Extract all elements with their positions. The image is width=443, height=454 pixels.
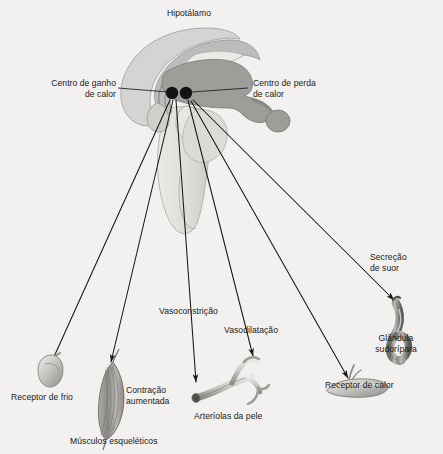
heat-loss-center-label-line2: de calor bbox=[253, 89, 284, 100]
contraction-label-line2: aumentada bbox=[126, 396, 169, 407]
cold-receptor-label: Receptor de frio bbox=[11, 392, 73, 403]
heat-receptor-label: Receptor de calor bbox=[325, 380, 394, 391]
arteriole-branch-tail bbox=[248, 391, 258, 404]
brain-sagittal-section bbox=[121, 28, 290, 234]
skin-arterioles-organ bbox=[191, 357, 269, 404]
heat-gain-center-dot[interactable] bbox=[166, 87, 178, 99]
skeletal-muscle-organ bbox=[98, 349, 124, 450]
skin-arterioles-label: Arteríolas da pele bbox=[194, 411, 262, 422]
sweat-gland-label-line1: Glândula bbox=[357, 333, 435, 344]
pathway-cold-receptor bbox=[48, 100, 170, 370]
arteriole-branch-lower bbox=[248, 377, 260, 392]
pathway-heat-receptor bbox=[191, 101, 348, 378]
page-title: Hipotálamo bbox=[167, 8, 211, 19]
midbrain-lobe bbox=[183, 110, 227, 163]
contraction-label-line1: Contração bbox=[126, 385, 166, 396]
diagram-canvas: Hipotálamo Centro de ganho de calor Cent… bbox=[0, 0, 443, 454]
cold-receptor-bulb bbox=[38, 355, 63, 387]
vasodilation-label: Vasodilatação bbox=[224, 325, 278, 336]
heat-loss-center-dot[interactable] bbox=[180, 87, 192, 99]
heat-gain-center-label-line1: Centro de ganho bbox=[0, 78, 116, 89]
sweat-secretion-label-line1: Secreção bbox=[370, 252, 407, 263]
pathway-sweat bbox=[193, 100, 394, 300]
vasoconstriction-label: Vasoconstrição bbox=[159, 306, 218, 317]
pituitary-gland bbox=[266, 110, 290, 132]
heat-gain-center-label-line2: de calor bbox=[0, 89, 116, 100]
sweat-gland-label-line2: sudorípara bbox=[357, 344, 435, 355]
sweat-secretion-label-line2: de suor bbox=[370, 263, 399, 274]
skeletal-muscles-label: Músculos esqueléticos bbox=[70, 436, 158, 447]
pathway-shivering bbox=[111, 100, 173, 362]
cold-receptor-organ bbox=[38, 353, 63, 387]
heat-loss-center-label-line1: Centro de perda bbox=[253, 78, 316, 89]
